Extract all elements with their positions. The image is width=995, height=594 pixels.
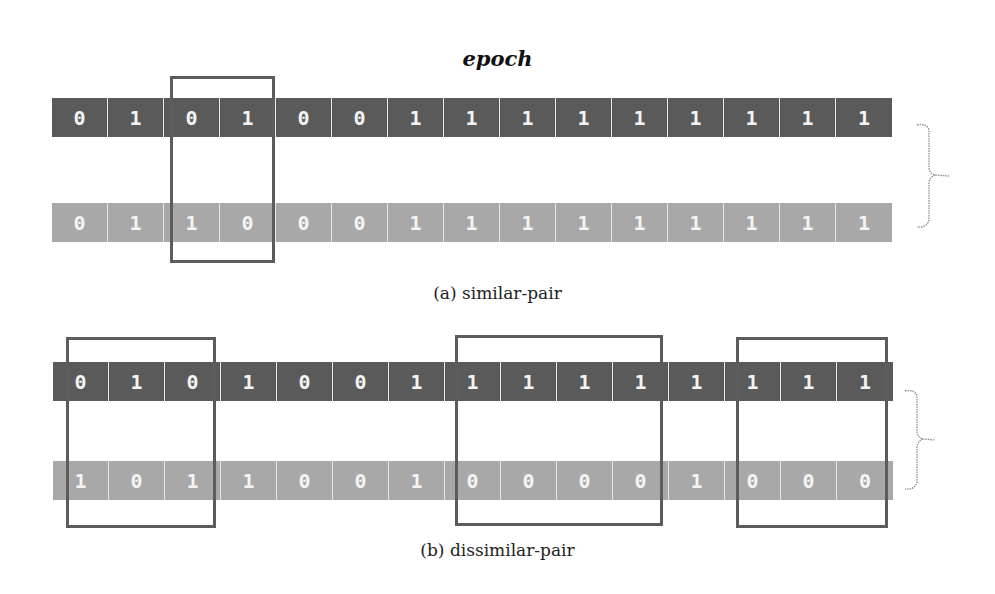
panel-b-highlight-box-2 (455, 335, 663, 526)
panel-b-highlight-box-1 (66, 337, 216, 528)
panel-a-brace-icon (915, 122, 955, 232)
bit-cell: 1 (556, 203, 612, 242)
panel-b-caption: (b) dissimilar-pair (0, 540, 995, 560)
bit-cell: 1 (612, 203, 668, 242)
bit-cell: 1 (669, 461, 725, 500)
bit-cell: 0 (277, 461, 333, 500)
panel-a-caption: (a) similar-pair (0, 283, 995, 303)
bit-cell: 1 (836, 203, 892, 242)
bit-cell: 0 (332, 203, 388, 242)
bit-cell: 1 (108, 203, 164, 242)
bit-cell: 1 (388, 98, 444, 137)
bit-cell: 1 (612, 98, 668, 137)
bit-cell: 1 (724, 203, 780, 242)
bit-cell: 1 (556, 98, 612, 137)
panel-b-highlight-box-3 (736, 337, 888, 528)
bit-cell: 1 (444, 98, 500, 137)
bit-cell: 1 (221, 461, 277, 500)
bit-cell: 1 (500, 98, 556, 137)
bit-cell: 1 (221, 362, 277, 401)
bit-cell: 0 (276, 98, 332, 137)
bit-cell: 1 (444, 203, 500, 242)
bit-cell: 1 (389, 362, 445, 401)
bit-cell: 1 (668, 98, 724, 137)
bit-cell: 0 (277, 362, 333, 401)
panel-b-brace-icon (903, 388, 943, 494)
bit-cell: 1 (108, 98, 164, 137)
panel-a-highlight-box (170, 76, 275, 263)
epoch-title: epoch (0, 46, 995, 71)
bit-cell: 1 (668, 203, 724, 242)
bit-cell: 1 (388, 203, 444, 242)
bit-cell: 1 (500, 203, 556, 242)
bit-cell: 1 (724, 98, 780, 137)
bit-cell: 1 (836, 98, 892, 137)
bit-cell: 0 (52, 203, 108, 242)
bit-cell: 0 (276, 203, 332, 242)
bit-cell: 1 (780, 203, 836, 242)
bit-cell: 0 (332, 98, 388, 137)
bit-cell: 0 (333, 461, 389, 500)
bit-cell: 0 (333, 362, 389, 401)
bit-cell: 0 (52, 98, 108, 137)
bit-cell: 1 (780, 98, 836, 137)
bit-cell: 1 (669, 362, 725, 401)
bit-cell: 1 (389, 461, 445, 500)
